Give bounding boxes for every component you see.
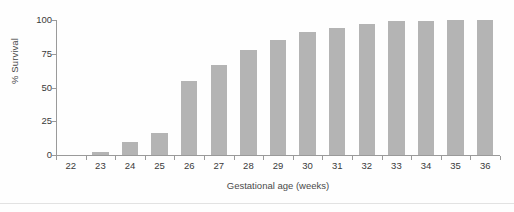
- x-tick-label: 22: [56, 160, 86, 172]
- x-tick-label: 23: [86, 160, 116, 172]
- y-tick-label: 0: [26, 150, 52, 160]
- x-tick-label: 32: [352, 160, 382, 172]
- page-divider: [0, 203, 514, 204]
- y-tick-label: 50: [26, 83, 52, 93]
- bar: [92, 152, 109, 155]
- x-axis-title: Gestational age (weeks): [56, 180, 500, 191]
- x-tick-mark: [500, 156, 501, 160]
- survival-bar-chart: % Survival 0255075100 222324252627282930…: [0, 0, 514, 212]
- x-tick-label: 25: [145, 160, 175, 172]
- x-tick-label: 28: [234, 160, 264, 172]
- bar: [122, 142, 139, 156]
- x-tick-label: 34: [411, 160, 441, 172]
- bar: [270, 40, 287, 155]
- bar: [447, 20, 464, 155]
- y-tick-mark: [52, 121, 56, 122]
- plot-area: [56, 20, 500, 155]
- x-tick-label: 36: [470, 160, 500, 172]
- y-tick-mark: [52, 88, 56, 89]
- y-tick-mark: [52, 20, 56, 21]
- y-tick-label: 75: [26, 49, 52, 59]
- x-tick-label: 24: [115, 160, 145, 172]
- x-axis-tick-labels: 222324252627282930313233343536: [56, 160, 500, 174]
- bar: [299, 32, 316, 155]
- bar: [240, 50, 257, 155]
- bar: [329, 28, 346, 155]
- bar: [388, 21, 405, 155]
- bar: [151, 133, 168, 155]
- y-axis-title: % Survival: [9, 21, 27, 101]
- x-tick-label: 29: [263, 160, 293, 172]
- x-tick-label: 30: [293, 160, 323, 172]
- bar: [359, 24, 376, 155]
- x-tick-label: 35: [441, 160, 471, 172]
- bar: [211, 65, 228, 155]
- x-tick-label: 26: [174, 160, 204, 172]
- x-tick-label: 27: [204, 160, 234, 172]
- x-tick-label: 33: [382, 160, 412, 172]
- bar-series: [56, 20, 500, 155]
- y-tick-label: 100: [26, 15, 52, 25]
- bar: [418, 21, 435, 155]
- x-tick-label: 31: [322, 160, 352, 172]
- x-axis-line: [56, 155, 500, 156]
- bar: [477, 20, 494, 155]
- y-tick-label: 25: [26, 116, 52, 126]
- y-axis-tick-labels: 0255075100: [26, 0, 52, 212]
- y-tick-mark: [52, 54, 56, 55]
- bar: [181, 81, 198, 155]
